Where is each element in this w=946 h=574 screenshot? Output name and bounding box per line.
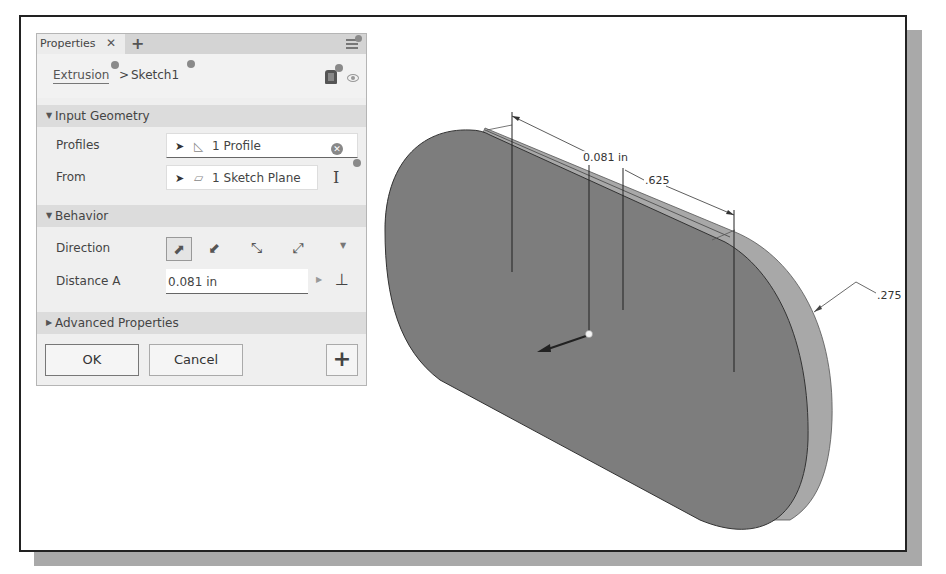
from-label: From bbox=[56, 170, 86, 184]
apply-plus-button[interactable]: + bbox=[326, 344, 358, 376]
sketch-plane-icon: ▱ bbox=[194, 171, 203, 185]
profiles-label: Profiles bbox=[56, 138, 100, 152]
section-advanced-properties[interactable]: ▶ Advanced Properties bbox=[37, 312, 366, 334]
cancel-button[interactable]: Cancel bbox=[149, 344, 243, 376]
marker-dot bbox=[355, 35, 362, 42]
select-cursor-icon: ➤ bbox=[175, 172, 184, 185]
row-direction: Direction ⬈ ⬋ ⤡ ⤢ ▼ bbox=[37, 233, 366, 263]
tab-properties-label: Properties bbox=[40, 37, 96, 50]
section-behavior[interactable]: ▼ Behavior bbox=[37, 205, 366, 227]
tab-properties[interactable]: Properties ✕ bbox=[37, 34, 125, 54]
profile-region-icon: ◺ bbox=[194, 139, 203, 153]
breadcrumb-sketch[interactable]: Sketch1 bbox=[131, 68, 179, 82]
row-profiles: Profiles ➤ ◺ 1 Profile ✕ bbox=[37, 130, 366, 160]
preview-eye-icon[interactable] bbox=[347, 74, 359, 82]
marker-dot bbox=[353, 159, 361, 167]
expand-triangle-icon: ▼ bbox=[46, 211, 52, 220]
select-cursor-icon: ➤ bbox=[175, 140, 184, 153]
breadcrumb-extrusion[interactable]: Extrusion bbox=[53, 68, 109, 84]
value-menu-arrow-icon[interactable]: ▶ bbox=[316, 275, 322, 284]
dimension-extrude-distance[interactable]: 0.081 in bbox=[581, 151, 630, 164]
collapse-triangle-icon: ▶ bbox=[46, 318, 52, 327]
breadcrumb: Extrusion > Sketch1 bbox=[37, 54, 366, 98]
from-value: 1 Sketch Plane bbox=[212, 171, 301, 185]
distance-a-input[interactable]: 0.081 in bbox=[166, 269, 308, 294]
add-tab-icon[interactable]: + bbox=[131, 34, 144, 53]
direction-label: Direction bbox=[56, 241, 110, 255]
close-icon[interactable]: ✕ bbox=[106, 36, 116, 50]
direction-symmetric-button[interactable]: ⤡ bbox=[243, 237, 269, 261]
chevron-down-icon[interactable]: ▼ bbox=[340, 241, 346, 250]
section-label: Advanced Properties bbox=[55, 316, 179, 330]
marker-dot bbox=[335, 64, 343, 72]
distance-a-label: Distance A bbox=[56, 274, 121, 288]
breadcrumb-separator: > bbox=[119, 68, 129, 82]
from-selector[interactable]: ➤ ▱ 1 Sketch Plane bbox=[166, 165, 318, 190]
flip-start-icon[interactable]: I bbox=[333, 168, 339, 187]
row-from: From ➤ ▱ 1 Sketch Plane I bbox=[37, 162, 366, 192]
dimension-length[interactable]: .625 bbox=[643, 174, 672, 187]
profiles-value: 1 Profile bbox=[212, 139, 261, 153]
ok-button[interactable]: OK bbox=[45, 344, 139, 376]
dimension-radius[interactable]: .275 bbox=[875, 289, 904, 302]
clear-selection-icon[interactable]: ✕ bbox=[331, 143, 343, 155]
marker-dot bbox=[111, 61, 119, 69]
properties-panel: Properties ✕ + Extrusion > Sketch1 ▼ Inp… bbox=[36, 33, 367, 386]
section-label: Input Geometry bbox=[55, 109, 150, 123]
marker-dot bbox=[187, 60, 195, 68]
direction-asymmetric-button[interactable]: ⤢ bbox=[285, 237, 311, 261]
extent-to-icon[interactable]: ⊥ bbox=[335, 270, 349, 289]
panel-tab-bar: Properties ✕ + bbox=[37, 34, 366, 54]
section-input-geometry[interactable]: ▼ Input Geometry bbox=[37, 105, 366, 127]
expand-triangle-icon: ▼ bbox=[46, 111, 52, 120]
direction-default-button[interactable]: ⬈ bbox=[166, 237, 192, 261]
output-body-icon[interactable] bbox=[325, 70, 337, 84]
section-label: Behavior bbox=[55, 209, 108, 223]
profiles-selector[interactable]: ➤ ◺ 1 Profile ✕ bbox=[166, 133, 358, 158]
direction-flipped-button[interactable]: ⬋ bbox=[201, 237, 227, 261]
row-distance-a: Distance A 0.081 in ▶ ⊥ bbox=[37, 266, 366, 296]
